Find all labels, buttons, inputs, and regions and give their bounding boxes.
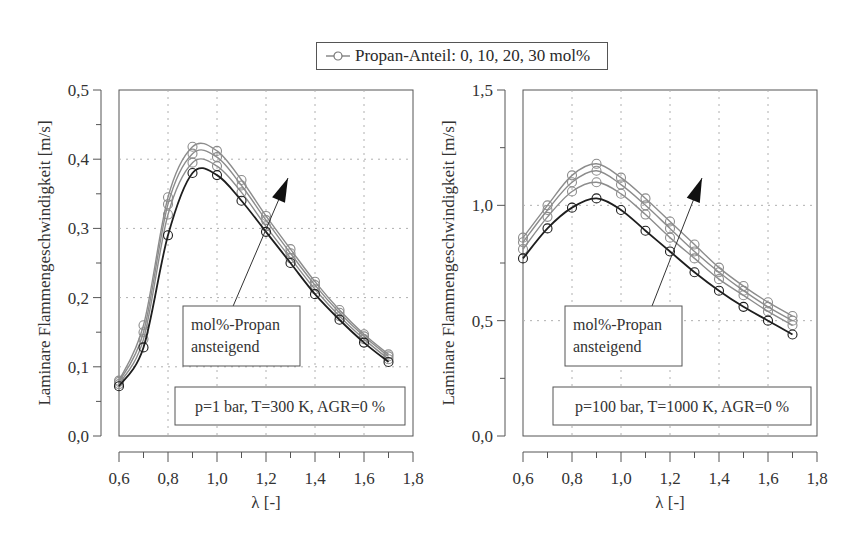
y-tick-label: 0,3 — [68, 219, 89, 238]
y-tick-label: 1,5 — [472, 81, 493, 100]
y-tick-label: 0,4 — [68, 150, 90, 169]
y-tick-label: 1,0 — [472, 196, 493, 215]
annotation-line-1: mol%-Propan — [573, 316, 662, 334]
annotation-box — [565, 306, 682, 366]
annotation-box — [183, 306, 300, 366]
y-tick-label: 0,1 — [68, 358, 89, 377]
y-tick-label: 0,5 — [472, 312, 493, 331]
conditions-label: p=1 bar, T=300 K, AGR=0 % — [195, 398, 385, 416]
x-tick-label: 1,0 — [610, 469, 631, 488]
series-line-2 — [523, 171, 793, 321]
x-tick-label: 1,6 — [757, 469, 778, 488]
x-tick-label: 1,8 — [402, 469, 423, 488]
trend-arrow-head-icon — [687, 178, 702, 203]
chart-panel-left: 0,00,10,20,30,40,5Laminare Flammengeschw… — [35, 81, 424, 512]
chart-canvas: 0,00,10,20,30,40,5Laminare Flammengeschw… — [0, 0, 860, 540]
y-axis-title: Laminare Flammengeschwindigkeit [m/s] — [35, 120, 54, 405]
y-tick-label: 0,0 — [68, 427, 89, 446]
trend-arrow-head-icon — [272, 178, 288, 203]
x-tick-label: 1,4 — [708, 469, 730, 488]
x-tick-label: 0,8 — [157, 469, 178, 488]
y-axis-title: Laminare Flammengeschwindigkeit [m/s] — [439, 120, 458, 405]
series-line-1 — [523, 182, 793, 325]
x-axis-title: λ [-] — [655, 493, 684, 512]
chart-panel-right: 0,00,51,01,5Laminare Flammengeschwindigk… — [439, 81, 828, 512]
annotation-line-2: ansteigend — [191, 338, 259, 356]
x-tick-label: 1,2 — [659, 469, 680, 488]
x-tick-label: 0,8 — [561, 469, 582, 488]
x-tick-label: 0,6 — [108, 469, 129, 488]
x-tick-label: 1,8 — [806, 469, 827, 488]
x-tick-label: 1,6 — [353, 469, 374, 488]
annotation-line-2: ansteigend — [573, 338, 641, 356]
x-axis-title: λ [-] — [251, 493, 280, 512]
y-tick-label: 0,5 — [68, 81, 89, 100]
x-tick-label: 1,4 — [304, 469, 326, 488]
x-tick-label: 1,0 — [206, 469, 227, 488]
x-tick-label: 0,6 — [512, 469, 533, 488]
y-tick-label: 0,2 — [68, 289, 89, 308]
annotation-line-1: mol%-Propan — [191, 316, 280, 334]
y-tick-label: 0,0 — [472, 427, 493, 446]
conditions-label: p=100 bar, T=1000 K, AGR=0 % — [575, 398, 789, 416]
x-tick-label: 1,2 — [255, 469, 276, 488]
